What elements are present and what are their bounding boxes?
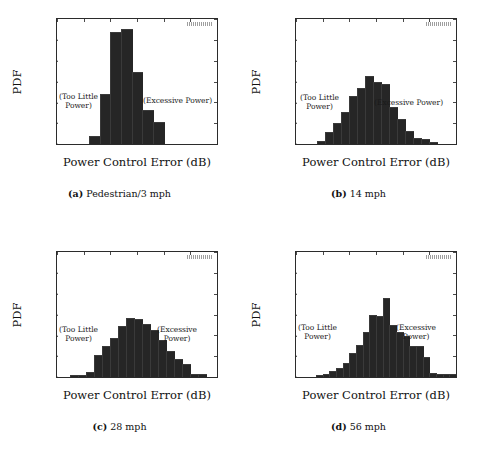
x-tick-d-3: 10 [371, 377, 382, 378]
x-tick-c-2: 0 [108, 377, 113, 378]
y-tick-inner-right-b-0 [453, 144, 456, 145]
x-tick-b-3: 10 [371, 144, 382, 145]
plot-area-c: 0.00.050.10.150.20.250.3-20-10010203040(… [56, 251, 218, 378]
x-tick-a-6: 40 [212, 144, 218, 145]
x-tick-d-2: 0 [347, 377, 352, 378]
histogram-bars-a [57, 19, 217, 144]
x-tick-d-1: -10 [316, 377, 330, 378]
histogram-bar [429, 142, 438, 144]
y-axis-label-text-d: PDF [249, 302, 263, 327]
x-tick-a-3: 10 [132, 144, 143, 145]
plot-wrap-a: PDF0.00.050.10.150.20.250.3-20-100102030… [0, 0, 239, 190]
y-axis-label-c: PDF [10, 251, 24, 378]
y-axis-label-text-c: PDF [10, 302, 24, 327]
histogram-bars-d [296, 252, 456, 377]
x-tick-c-0: -20 [56, 377, 64, 378]
x-tick-b-5: 30 [424, 144, 435, 145]
x-tick-b-4: 20 [397, 144, 408, 145]
histogram-bar [198, 374, 207, 377]
x-tick-c-4: 20 [158, 377, 169, 378]
x-axis-label-c: Power Control Error (dB) [56, 389, 218, 402]
x-tick-inner-top-d-6 [456, 252, 457, 255]
panel-caption-b: (b) 14 mph [239, 188, 478, 199]
panel-c: PDF0.00.050.10.150.20.250.3-20-100102030… [0, 233, 239, 466]
x-tick-b-2: 0 [347, 144, 352, 145]
panel-caption-tag-d: (d) [331, 421, 347, 432]
plot-wrap-d: PDF0.00.050.10.150.20.250.3-20-100102030… [239, 233, 478, 423]
histogram-bars-c [57, 252, 217, 377]
y-axis-label-text-a: PDF [10, 69, 24, 94]
plot-area-b: 0.00.050.10.150.20.250.3-20-10010203040(… [295, 18, 457, 145]
x-tick-d-5: 30 [424, 377, 435, 378]
y-tick-inner-right-a-0 [214, 144, 217, 145]
panel-caption-text-d: 56 mph [350, 421, 386, 432]
x-axis-label-a: Power Control Error (dB) [56, 156, 218, 169]
y-axis-label-text-b: PDF [249, 69, 263, 94]
x-tick-inner-top-a-6 [217, 19, 218, 22]
panel-b: PDF0.00.050.10.150.20.250.3-20-100102030… [239, 0, 478, 233]
plot-wrap-c: PDF0.00.050.10.150.20.250.3-20-100102030… [0, 233, 239, 423]
panel-caption-tag-b: (b) [331, 188, 347, 199]
x-tick-c-6: 40 [212, 377, 218, 378]
panel-caption-tag-c: (c) [92, 421, 107, 432]
panel-caption-text-a: Pedestrian/3 mph [86, 188, 171, 199]
x-tick-d-4: 20 [397, 377, 408, 378]
x-axis-label-d: Power Control Error (dB) [295, 389, 457, 402]
y-axis-label-d: PDF [249, 251, 263, 378]
plot-wrap-b: PDF0.00.050.10.150.20.250.3-20-100102030… [239, 0, 478, 190]
x-tick-a-2: 0 [108, 144, 113, 145]
x-tick-a-4: 20 [158, 144, 169, 145]
x-tick-a-0: -20 [56, 144, 64, 145]
x-tick-inner-top-b-6 [456, 19, 457, 22]
corner-label-mark-d [426, 255, 452, 259]
histogram-bar [153, 122, 165, 144]
x-tick-b-6: 40 [451, 144, 457, 145]
panel-caption-text-b: 14 mph [350, 188, 386, 199]
x-tick-inner-top-c-6 [217, 252, 218, 255]
x-tick-c-3: 10 [132, 377, 143, 378]
panel-caption-a: (a) Pedestrian/3 mph [0, 188, 239, 199]
plot-area-a: 0.00.050.10.150.20.250.3-20-10010203040(… [56, 18, 218, 145]
x-axis-label-b: Power Control Error (dB) [295, 156, 457, 169]
x-tick-d-0: -20 [295, 377, 303, 378]
y-tick-inner-right-d-0 [453, 377, 456, 378]
x-tick-c-5: 30 [185, 377, 196, 378]
y-tick-inner-right-c-0 [214, 377, 217, 378]
x-tick-a-1: -10 [77, 144, 91, 145]
y-axis-label-a: PDF [10, 18, 24, 145]
panel-caption-d: (d) 56 mph [239, 421, 478, 432]
corner-label-mark-b [426, 22, 452, 26]
plot-area-d: 0.00.050.10.150.20.250.3-20-10010203040(… [295, 251, 457, 378]
panel-caption-tag-a: (a) [68, 188, 83, 199]
histogram-bars-b [296, 19, 456, 144]
corner-label-mark-c [187, 255, 213, 259]
panel-caption-text-c: 28 mph [110, 421, 146, 432]
panel-a: PDF0.00.050.10.150.20.250.3-20-100102030… [0, 0, 239, 233]
corner-label-mark-a [187, 22, 213, 26]
x-tick-a-5: 30 [185, 144, 196, 145]
x-tick-b-0: -20 [295, 144, 303, 145]
y-axis-label-b: PDF [249, 18, 263, 145]
x-tick-d-6: 40 [451, 377, 457, 378]
figure-four-histogram-panels: PDF0.00.050.10.150.20.250.3-20-100102030… [0, 0, 478, 467]
x-tick-c-1: -10 [77, 377, 91, 378]
x-tick-b-1: -10 [316, 144, 330, 145]
histogram-bar [449, 374, 457, 378]
panel-caption-c: (c) 28 mph [0, 421, 239, 432]
panel-d: PDF0.00.050.10.150.20.250.3-20-100102030… [239, 233, 478, 466]
